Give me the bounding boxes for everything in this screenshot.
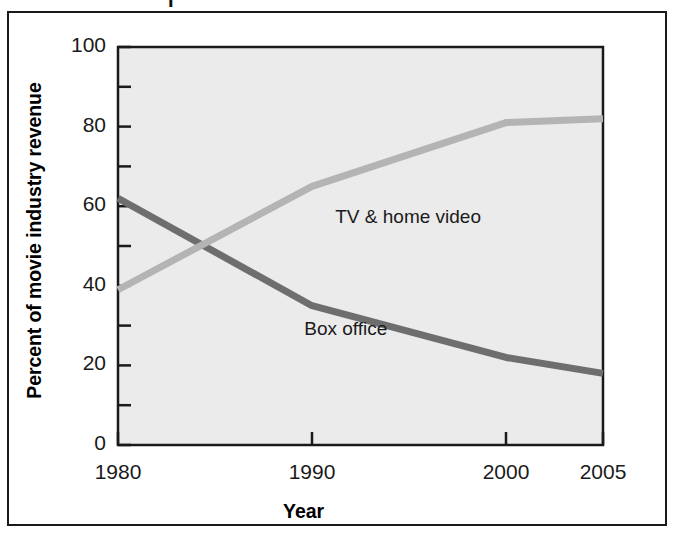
series-label: TV & home video: [335, 206, 481, 228]
y-tick-label: 80: [50, 113, 106, 137]
y-tick-label: 100: [50, 33, 106, 57]
x-tick-label: 1990: [272, 460, 352, 484]
x-axis-title: Year: [283, 500, 324, 523]
line-chart: [0, 0, 678, 539]
y-tick-label: 20: [50, 351, 106, 375]
x-tick-label: 2005: [563, 460, 643, 484]
y-axis-title: Percent of movie industry revenue: [23, 31, 46, 451]
chart-figure: I 020406080100 1980199020002005 Box offi…: [0, 0, 678, 539]
series-label: Box office: [304, 318, 387, 340]
y-tick-label: 0: [50, 431, 106, 455]
y-tick-label: 40: [50, 272, 106, 296]
x-tick-label: 1980: [78, 460, 158, 484]
y-tick-label: 60: [50, 192, 106, 216]
plot-background: [118, 47, 603, 445]
x-tick-label: 2000: [466, 460, 546, 484]
